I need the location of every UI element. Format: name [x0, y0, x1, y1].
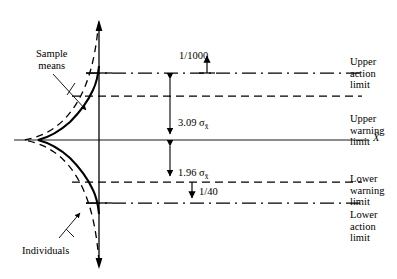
figure-canvas: Sample means Individuals 1/1000 1/40 3.0…: [0, 0, 397, 279]
upper-action-limit-label: Upper action limit: [350, 56, 376, 91]
upper-warning-limit-label: Upper warning limit: [350, 113, 384, 148]
dimension-1-96-label: 1.96 σx̄: [178, 155, 208, 182]
individuals-leader: [59, 213, 80, 238]
lower-tail-probability-label: 1/40: [199, 186, 218, 198]
dimension-3-09-subscript: x̄: [205, 122, 209, 131]
individuals-label: Individuals: [22, 245, 69, 257]
lower-warning-limit-label: Lower warning limit: [350, 173, 384, 208]
lower-action-limit-label: Lower action limit: [350, 209, 377, 244]
dimension-1-96-value: 1.96 σ: [178, 167, 205, 178]
sample-means-label: Sample means: [36, 48, 68, 71]
sample-means-leader: [53, 74, 86, 110]
dimension-1-96-subscript: x̄: [205, 172, 209, 181]
upper-tail-probability-label: 1/1000: [179, 50, 208, 62]
vertical-axis: [96, 20, 103, 269]
dimension-3-09-value: 3.09 σ: [178, 117, 205, 128]
control-chart-drawing: [0, 0, 397, 279]
dimension-3-09-label: 3.09 σx̄: [178, 105, 208, 132]
